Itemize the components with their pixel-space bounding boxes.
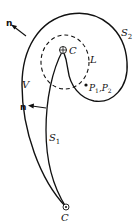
- volume-label: V: [22, 79, 31, 90]
- diagram-canvas: n n S2 S1 V L C C P1,P2: [0, 0, 139, 223]
- normal-label-top: n: [6, 18, 12, 28]
- diagram-svg: n n S2 S1 V L C C P1,P2: [0, 0, 139, 223]
- normal-label-mid: n: [20, 102, 26, 112]
- points-p1-p2-label: P1,P2: [88, 83, 112, 94]
- surface-s1-label: S1: [49, 132, 60, 146]
- point-p1-p2-marker: [84, 83, 87, 86]
- point-c-top-label: C: [69, 45, 77, 56]
- point-c-bottom-icon: [63, 204, 69, 210]
- curve-l-label: L: [89, 54, 97, 65]
- dashed-curve-l: [41, 35, 89, 89]
- outer-surface-s2: [22, 13, 127, 207]
- point-c-bottom-label: C: [61, 212, 69, 223]
- point-c-top-icon: [60, 47, 67, 54]
- surface-s2-label: S2: [121, 27, 132, 41]
- normal-arrow-top-icon: [11, 25, 26, 37]
- normal-arrow-mid-icon: [28, 104, 46, 109]
